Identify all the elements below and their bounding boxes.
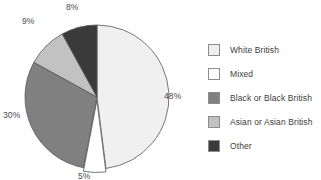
legend-label-white-british: White British	[230, 45, 279, 55]
chart-legend: White British Mixed Black or Black Briti…	[208, 38, 321, 158]
slice-label-mixed: 5%	[78, 171, 91, 180]
pie-plot-area: 48% 5% 30% 9% 8%	[0, 0, 200, 180]
legend-item-mixed[interactable]: Mixed	[208, 62, 321, 86]
legend-label-mixed: Mixed	[230, 69, 253, 79]
legend-swatch-icon-asian-british	[208, 116, 220, 128]
legend-swatch-icon-black-british	[208, 92, 220, 104]
legend-label-other: Other	[230, 141, 252, 151]
pie-slice[interactable]	[97, 25, 169, 168]
legend-swatch-icon-mixed	[208, 68, 220, 80]
legend-swatch-icon-other	[208, 140, 220, 152]
legend-item-asian-british[interactable]: Asian or Asian British	[208, 110, 321, 134]
slice-label-white-british: 48%	[164, 91, 181, 101]
legend-item-other[interactable]: Other	[208, 134, 321, 158]
legend-label-asian-british: Asian or Asian British	[230, 117, 313, 127]
slice-label-asian-british: 9%	[22, 16, 35, 26]
slice-label-black-british: 30%	[3, 110, 20, 120]
pie-slice-group	[25, 25, 169, 172]
legend-label-black-british: Black or Black British	[230, 93, 312, 103]
legend-swatch-icon-white-british	[208, 44, 220, 56]
slice-label-other: 8%	[66, 2, 79, 12]
legend-item-black-british[interactable]: Black or Black British	[208, 86, 321, 110]
pie-svg	[0, 0, 200, 180]
pie-chart-figure: 48% 5% 30% 9% 8% White British Mixed Bla…	[0, 0, 321, 180]
legend-item-white-british[interactable]: White British	[208, 38, 321, 62]
